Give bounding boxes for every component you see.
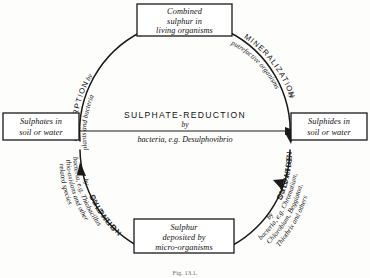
sulphate-reduction-by: by bbox=[182, 120, 190, 129]
sulphates-line-2: soil or water bbox=[19, 128, 63, 137]
sulphides-line-1: Sulphides in bbox=[308, 117, 350, 126]
sulphur-cycle-figure: SULPHATE-REDUCTION by bacteria, e.g. Des… bbox=[0, 0, 370, 278]
sulphide-oxidation-label: SULPHIDE- OXIDATION by bacteria, e.g. Ch… bbox=[257, 151, 310, 249]
combined-sulphur-line-3: living organisms bbox=[156, 26, 213, 35]
combined-sulphur-line-2: sulphur in bbox=[167, 17, 202, 26]
sulphur-deposited-line-2: deposited by bbox=[163, 233, 206, 242]
mineralization-title: MINERALIZATION bbox=[243, 32, 297, 100]
combined-sulphur-line-1: Combined bbox=[167, 7, 203, 16]
sulphur-deposited-box: Sulphur deposited by micro-organisms bbox=[134, 219, 234, 253]
mineralization-label: MINERALIZATION by putrefactive organisms bbox=[229, 32, 297, 100]
sulphate-reduction-label: SULPHATE-REDUCTION by bacteria, e.g. Des… bbox=[124, 110, 246, 144]
sulphur-deposited-line-3: micro-organisms bbox=[155, 243, 213, 252]
sulphate-reduction-title: SULPHATE-REDUCTION bbox=[124, 110, 246, 120]
sulphur-oxidation-label: SULPHUR- OXIDATION by bacteria, e.g. Thi… bbox=[57, 157, 124, 239]
absorption-by: by bbox=[84, 72, 95, 83]
figure-caption: Fig. 13.1. bbox=[173, 269, 198, 276]
sulphates-line-1: Sulphates in bbox=[20, 117, 62, 126]
sulphate-reduction-agents: bacteria, e.g. Desulphovibrio bbox=[137, 135, 232, 144]
combined-sulphur-box: Combined sulphur in living organisms bbox=[137, 4, 232, 36]
sulphur-deposited-line-1: Sulphur bbox=[171, 223, 199, 232]
sulphides-box: Sulphides in soil or water bbox=[291, 113, 367, 140]
sulphides-line-2: soil or water bbox=[307, 128, 351, 137]
sulphates-box: Sulphates in soil or water bbox=[3, 113, 79, 140]
cycle-canvas: SULPHATE-REDUCTION by bacteria, e.g. Des… bbox=[0, 0, 370, 278]
